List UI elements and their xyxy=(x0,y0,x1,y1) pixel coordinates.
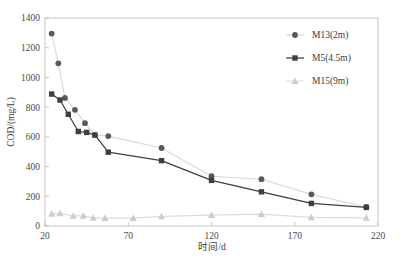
y-tick-label: 800 xyxy=(26,103,41,113)
y-tick-label: 1000 xyxy=(21,73,40,83)
marker-circle xyxy=(72,107,78,113)
marker-square xyxy=(49,91,54,96)
marker-circle xyxy=(309,191,315,197)
marker-circle xyxy=(159,145,165,151)
marker-square xyxy=(159,158,164,163)
y-axis-title: COD/(mg/L) xyxy=(6,97,17,147)
marker-circle xyxy=(55,60,61,66)
y-tick-label: 600 xyxy=(26,132,41,142)
marker-circle xyxy=(105,133,111,139)
marker-circle xyxy=(292,32,298,38)
legend-label: M13(2m) xyxy=(312,30,348,41)
marker-square xyxy=(259,189,264,194)
x-axis-title: 时间/d xyxy=(198,241,226,252)
chart-container: 0200400600800100012001400 2070120170220 … xyxy=(0,0,404,262)
x-tick-label: 70 xyxy=(124,231,134,241)
x-tick-label: 220 xyxy=(371,231,386,241)
y-tick-label: 200 xyxy=(26,192,41,202)
legend-label: M15(9m) xyxy=(312,76,348,87)
x-tick-label: 20 xyxy=(40,231,50,241)
x-tick-label: 120 xyxy=(204,231,219,241)
marker-square xyxy=(209,178,214,183)
marker-square xyxy=(57,97,62,102)
marker-circle xyxy=(62,95,68,101)
marker-square xyxy=(309,201,314,206)
marker-square xyxy=(92,132,97,137)
y-tick-label: 1200 xyxy=(21,43,40,53)
marker-square xyxy=(106,149,111,154)
marker-square xyxy=(66,112,71,117)
y-tick-label: 400 xyxy=(26,162,41,172)
marker-square xyxy=(292,55,297,60)
y-tick-label: 0 xyxy=(35,221,40,231)
marker-square xyxy=(364,205,369,210)
legend-label: M5(4.5m) xyxy=(312,53,351,64)
y-tick-label: 1400 xyxy=(21,13,40,23)
marker-square xyxy=(84,130,89,135)
marker-square xyxy=(76,129,81,134)
x-tick-label: 170 xyxy=(288,231,303,241)
marker-circle xyxy=(49,31,55,37)
marker-circle xyxy=(259,176,265,182)
cod-time-line-chart: 0200400600800100012001400 2070120170220 … xyxy=(0,0,404,262)
marker-circle xyxy=(82,120,88,126)
